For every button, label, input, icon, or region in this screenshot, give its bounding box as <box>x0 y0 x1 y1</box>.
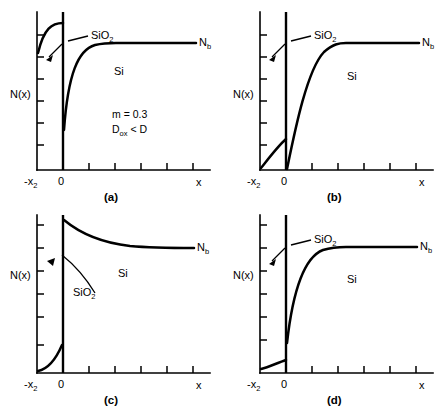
x-origin-label-d: 0 <box>281 378 287 390</box>
y-ticks-b <box>260 35 267 145</box>
bulk-label-c: Nb <box>197 241 209 256</box>
sio2-arrowhead-c <box>47 258 55 266</box>
x-left-tick-label-a: -x2 <box>24 175 37 190</box>
silicon-profile-curve-b <box>287 43 419 169</box>
oxide-label-a: SiO2 <box>91 29 114 44</box>
x-origin-label-b: 0 <box>281 175 287 187</box>
panel-d: SiO2 Nb Si N(x) x -x2 0 (d) <box>223 203 446 406</box>
sio2-arrow-line-d <box>272 248 285 261</box>
x-origin-label-c: 0 <box>58 378 64 390</box>
panel-caption-b: (b) <box>327 191 342 203</box>
x-left-tick-label-b: -x2 <box>247 175 260 190</box>
panel-c: SiO2 Nb Si N(x) x -x2 0 (c) <box>0 203 223 406</box>
x-ticks-d <box>312 366 416 373</box>
silicon-region-label-a: Si <box>114 65 124 77</box>
x-left-tick-label-d: -x2 <box>247 378 260 393</box>
oxide-profile-curve-c <box>38 345 62 371</box>
x-left-tick-label-c: -x2 <box>24 378 37 393</box>
y-axis-label-a: N(x) <box>10 88 31 100</box>
y-axis-label-c: N(x) <box>10 269 31 281</box>
figure-impurity-redistribution: SiO2 Nb Si m = 0.3 Dox < D N(x) x -x2 0 … <box>0 0 447 407</box>
sio2-leader-a <box>68 36 88 41</box>
x-axis-label-d: x <box>419 379 425 391</box>
silicon-region-label-d: Si <box>347 273 357 285</box>
silicon-profile-curve-d <box>287 247 417 343</box>
y-ticks-d <box>260 225 267 340</box>
silicon-region-label-b: Si <box>347 70 357 82</box>
annotation-d-a: Dox < D <box>112 123 147 138</box>
sio2-arrow-line-b <box>272 44 285 57</box>
panel-caption-a: (a) <box>104 191 118 203</box>
x-axis-label-a: x <box>196 176 202 188</box>
silicon-profile-curve-c <box>64 220 194 248</box>
x-ticks-a <box>89 163 193 170</box>
y-axis-label-b: N(x) <box>233 88 254 100</box>
sio2-arrow-line-a <box>49 44 62 57</box>
bulk-label-a: Nb <box>199 36 211 51</box>
panel-caption-c: (c) <box>104 394 118 406</box>
x-ticks-b <box>312 163 416 170</box>
x-ticks-c <box>89 366 193 373</box>
oxide-label-b: SiO2 <box>314 29 337 44</box>
oxide-label-d: SiO2 <box>314 233 337 248</box>
x-axis-label-c: x <box>196 379 202 391</box>
x-origin-label-a: 0 <box>58 175 64 187</box>
panel-b: SiO2 Nb Si N(x) x -x2 0 (b) <box>223 0 446 203</box>
silicon-region-label-c: Si <box>118 267 128 279</box>
sio2-leader-b <box>291 36 311 41</box>
bulk-label-d: Nb <box>420 240 432 255</box>
oxide-profile-curve-b <box>261 139 286 168</box>
oxide-profile-curve-a <box>38 23 63 53</box>
sio2-leader-d <box>291 240 311 245</box>
panel-caption-d: (d) <box>327 394 342 406</box>
annotation-m-a: m = 0.3 <box>112 108 147 120</box>
oxide-profile-curve-d <box>261 360 286 369</box>
x-axis-label-b: x <box>419 176 425 188</box>
panel-a: SiO2 Nb Si m = 0.3 Dox < D N(x) x -x2 0 … <box>0 0 223 203</box>
y-axis-label-d: N(x) <box>233 269 254 281</box>
bulk-label-b: Nb <box>422 36 434 51</box>
y-ticks-c <box>37 225 44 345</box>
